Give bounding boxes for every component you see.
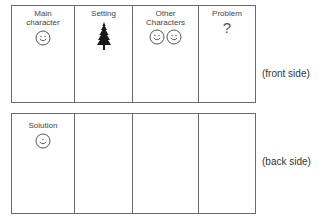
smiley-face-icon [35, 133, 51, 149]
problem-cell: Problem ? [199, 6, 255, 102]
smiley-face-icon [166, 29, 182, 45]
label-line: character [26, 18, 59, 27]
other-characters-cell: Other Characters [133, 6, 199, 102]
label-line: Main [26, 9, 59, 18]
problem-label: Problem [212, 9, 242, 18]
pine-tree-icon [97, 22, 111, 52]
solution-cell: Solution [12, 114, 75, 213]
main-character-cell: Main character [12, 6, 75, 102]
front-side-card: Main character Setting Other Characters [11, 5, 256, 103]
smiley-face-icon [149, 29, 165, 45]
empty-cell [75, 114, 133, 213]
label-line: Setting [91, 9, 116, 18]
label-line: Other [146, 9, 185, 18]
setting-cell: Setting [75, 6, 133, 102]
empty-cell [199, 114, 255, 213]
question-mark-icon: ? [223, 20, 231, 35]
label-line: Problem [212, 9, 242, 18]
label-line: Characters [146, 18, 185, 27]
solution-label: Solution [29, 121, 58, 130]
back-side-label: (back side) [262, 156, 311, 167]
empty-cell [133, 114, 199, 213]
back-side-card: Solution [11, 113, 256, 214]
main-character-label: Main character [26, 9, 59, 27]
setting-label: Setting [91, 9, 116, 18]
other-characters-label: Other Characters [146, 9, 185, 27]
label-line: Solution [29, 121, 58, 130]
smiley-face-icon [35, 30, 51, 46]
front-side-label: (front side) [262, 68, 310, 79]
